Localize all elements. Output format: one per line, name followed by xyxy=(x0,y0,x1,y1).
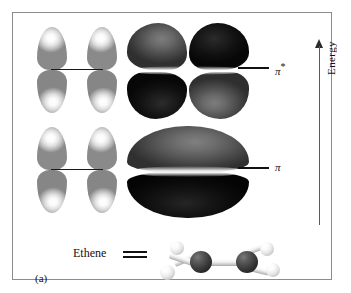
ethene-molecular-orbital-figure: π* π Ethene xyxy=(0,0,351,293)
hydrogen-atom xyxy=(266,263,280,277)
carbon-atom xyxy=(190,251,212,273)
pi-symbol-bonding: π xyxy=(275,161,281,173)
ethene-ball-and-stick-model xyxy=(156,239,280,283)
p-lobe-top-icon xyxy=(87,127,117,170)
energy-level-label-antibonding: π* xyxy=(275,61,286,77)
molecule-name-label: Ethene xyxy=(73,246,106,261)
mo-lobe-bottom xyxy=(127,171,249,218)
p-lobe-bottom-icon xyxy=(87,170,117,213)
p-lobe-top-icon xyxy=(37,27,67,70)
nodal-plane-highlight xyxy=(129,66,247,75)
nodal-plane-highlight xyxy=(131,166,245,177)
figure-frame: π* π Ethene xyxy=(12,12,332,280)
double-bond-symbol xyxy=(123,251,147,258)
p-orbital-pair-antibonding xyxy=(31,27,123,113)
hydrogen-atom xyxy=(170,241,184,255)
asterisk-superscript: * xyxy=(281,61,286,72)
pi-antibonding-orbital-surface xyxy=(127,23,249,119)
bond-line xyxy=(51,169,103,170)
p-orbital-pair-bonding xyxy=(31,127,123,213)
energy-axis-label: Energy xyxy=(325,41,337,75)
panel-caption: (a) xyxy=(35,272,47,284)
p-orbital-right-antibonding xyxy=(87,27,117,113)
mo-lobe-bottom-right xyxy=(189,72,249,119)
p-lobe-bottom-icon xyxy=(87,70,117,113)
energy-level-line-antibonding xyxy=(238,67,269,69)
hydrogen-atom xyxy=(260,242,274,256)
mo-lobe-top-right xyxy=(189,23,249,70)
p-lobe-top-icon xyxy=(37,127,67,170)
bond-line xyxy=(51,69,103,70)
p-orbital-right-bonding xyxy=(87,127,117,213)
p-orbital-left-antibonding xyxy=(37,27,67,113)
p-lobe-bottom-icon xyxy=(37,170,67,213)
mo-lobe-bottom-left xyxy=(127,72,187,119)
pi-bonding-orbital-surface xyxy=(127,126,249,218)
hydrogen-atom xyxy=(160,265,175,280)
bond-bar-lower xyxy=(123,256,147,258)
energy-level-line-bonding xyxy=(238,167,269,169)
p-orbital-left-bonding xyxy=(37,127,67,213)
p-lobe-bottom-icon xyxy=(37,70,67,113)
mo-lobe-top-left xyxy=(127,23,187,70)
p-lobe-top-icon xyxy=(87,27,117,70)
energy-level-label-bonding: π xyxy=(275,161,281,173)
axis-shaft xyxy=(319,46,320,225)
bond-bar-upper xyxy=(123,251,147,253)
carbon-atom xyxy=(236,251,258,273)
